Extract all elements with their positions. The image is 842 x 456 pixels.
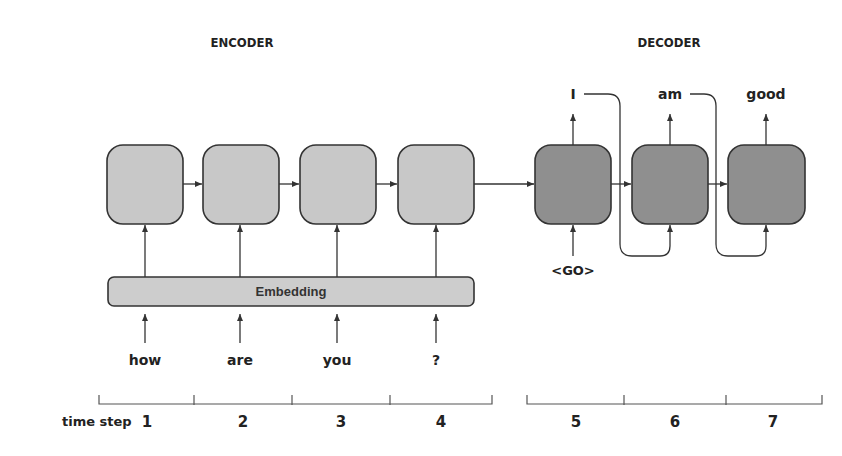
time-step-brackets — [99, 395, 822, 405]
input-word-2: are — [227, 352, 253, 368]
seq2seq-diagram: ENCODER DECODER Embedding ho — [0, 0, 842, 456]
time-step-2: 2 — [238, 413, 248, 431]
embedding-label: Embedding — [256, 284, 327, 299]
encoder-cell-2 — [203, 145, 279, 224]
encoder-title: ENCODER — [210, 35, 273, 50]
output-word-3: good — [746, 86, 785, 102]
go-token: <GO> — [551, 263, 595, 278]
embedding-to-encoder-arrows — [145, 225, 436, 277]
output-word-2: am — [658, 86, 682, 102]
encoder-cell-1 — [107, 145, 183, 224]
time-step-6: 6 — [670, 413, 680, 431]
time-step-5: 5 — [571, 413, 581, 431]
diagram-svg: ENCODER DECODER Embedding ho — [0, 0, 842, 456]
input-word-3: you — [323, 352, 352, 368]
decoder-cells — [535, 145, 805, 224]
output-arrows — [573, 114, 766, 145]
time-step-label: time step — [62, 414, 132, 429]
encoder-cell-3 — [300, 145, 376, 224]
decoder-cell-2 — [632, 145, 708, 224]
decoder-cell-3 — [728, 145, 805, 224]
input-word-4: ? — [432, 352, 440, 368]
output-word-1: I — [570, 86, 575, 102]
time-step-1: 1 — [142, 413, 152, 431]
time-step-3: 3 — [336, 413, 346, 431]
input-arrows — [145, 314, 436, 343]
input-word-1: how — [129, 352, 162, 368]
decoder-cell-1 — [535, 145, 611, 224]
time-step-7: 7 — [768, 413, 778, 431]
decoder-title: DECODER — [638, 35, 701, 50]
time-step-4: 4 — [436, 413, 446, 431]
encoder-cell-4 — [398, 145, 474, 224]
